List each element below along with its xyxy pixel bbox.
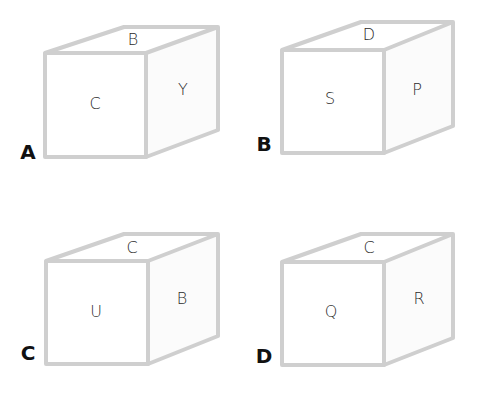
cube-c-right-letter: B (177, 289, 187, 308)
cube-d-right-letter: R (413, 289, 424, 308)
cube-option-a[interactable]: B C Y A (20, 27, 218, 164)
cube-a-right-letter: Y (178, 80, 188, 99)
cube-b-front-letter: S (325, 89, 335, 108)
option-label-a: A (20, 140, 36, 164)
cube-d-top-letter: C (363, 238, 374, 257)
cube-option-d[interactable]: C Q R D (256, 234, 453, 368)
cube-b-top-letter: D (363, 25, 375, 44)
cube-options-diagram: B C Y A D S P B C U B C C Q R D (0, 0, 481, 400)
option-label-d: D (256, 344, 273, 368)
cube-a-front-letter: C (89, 94, 100, 113)
cube-option-c[interactable]: C U B C (21, 234, 218, 365)
cube-b-right-letter: P (412, 80, 422, 99)
cube-c-top-letter: C (126, 238, 137, 257)
option-label-b: B (256, 132, 271, 156)
cube-c-front-letter: U (90, 302, 102, 321)
cube-d-front-letter: Q (325, 302, 338, 321)
option-label-c: C (21, 341, 36, 365)
cube-option-b[interactable]: D S P B (256, 22, 453, 156)
cube-a-top-letter: B (128, 30, 138, 49)
